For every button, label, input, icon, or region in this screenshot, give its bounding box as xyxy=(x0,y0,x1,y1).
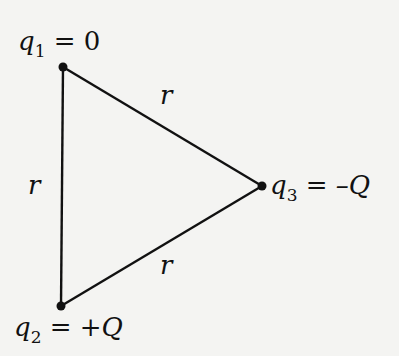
charge-value: 0 xyxy=(84,26,101,56)
side-label-bottom: r xyxy=(160,252,172,278)
charge-subscript: 3 xyxy=(287,185,298,205)
charge-subscript: 2 xyxy=(31,327,42,347)
triangle-charge-diagram: q1 = 0 q2 = +Q q3 = –Q r r r xyxy=(0,0,399,356)
charge-symbol: q xyxy=(18,26,35,56)
side-label-left: r xyxy=(28,172,40,198)
charge-label-q1: q1 = 0 xyxy=(18,28,100,54)
charge-label-q3: q3 = –Q xyxy=(270,172,370,198)
charge-symbol: q xyxy=(14,312,31,342)
side-label-top: r xyxy=(160,82,172,108)
charge-dot-q1 xyxy=(59,63,68,72)
charge-label-q2: q2 = +Q xyxy=(14,314,123,340)
charge-value: –Q xyxy=(336,170,370,200)
charge-symbol: q xyxy=(270,170,287,200)
charge-value: +Q xyxy=(80,312,123,342)
equals-sign: = xyxy=(41,312,79,342)
equals-sign: = xyxy=(297,170,335,200)
side-q1-q2 xyxy=(61,67,63,306)
side-q2-q3 xyxy=(61,186,262,306)
equals-sign: = xyxy=(45,26,83,56)
charge-dot-q3 xyxy=(258,182,267,191)
charge-dot-q2 xyxy=(57,302,66,311)
charge-subscript: 1 xyxy=(35,41,46,61)
